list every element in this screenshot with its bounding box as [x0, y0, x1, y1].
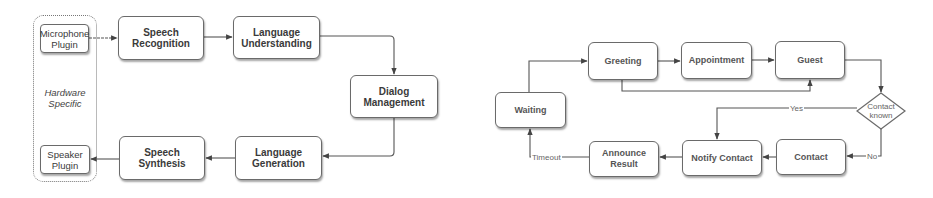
- announce-result-node[interactable]: Announce Result: [589, 141, 659, 177]
- greeting-node[interactable]: Greeting: [588, 42, 658, 80]
- contact-known-decision[interactable]: Contact known: [861, 102, 901, 120]
- dialog-management-node[interactable]: Dialog Management: [350, 75, 438, 118]
- timeout-edge-label: Timeout: [531, 153, 562, 162]
- speech-synthesis-node[interactable]: Speech Synthesis: [119, 136, 205, 180]
- guest-node[interactable]: Guest: [775, 41, 845, 79]
- speaker-plugin-node[interactable]: Speaker Plugin: [40, 145, 90, 174]
- contact-node[interactable]: Contact: [776, 139, 846, 175]
- yes-edge-label: Yes: [789, 104, 804, 113]
- microphone-plugin-node[interactable]: Microphone Plugin: [40, 24, 89, 53]
- notify-contact-node[interactable]: Notify Contact: [682, 140, 762, 176]
- no-edge-label: No: [866, 152, 878, 161]
- waiting-node[interactable]: Waiting: [495, 92, 566, 128]
- appointment-node[interactable]: Appointment: [681, 42, 752, 79]
- language-generation-node[interactable]: Language Generation: [235, 136, 322, 180]
- language-understanding-node[interactable]: Language Understanding: [233, 16, 320, 59]
- hardware-specific-label: Hardware Specific: [38, 87, 92, 109]
- speech-recognition-node[interactable]: Speech Recognition: [118, 16, 204, 60]
